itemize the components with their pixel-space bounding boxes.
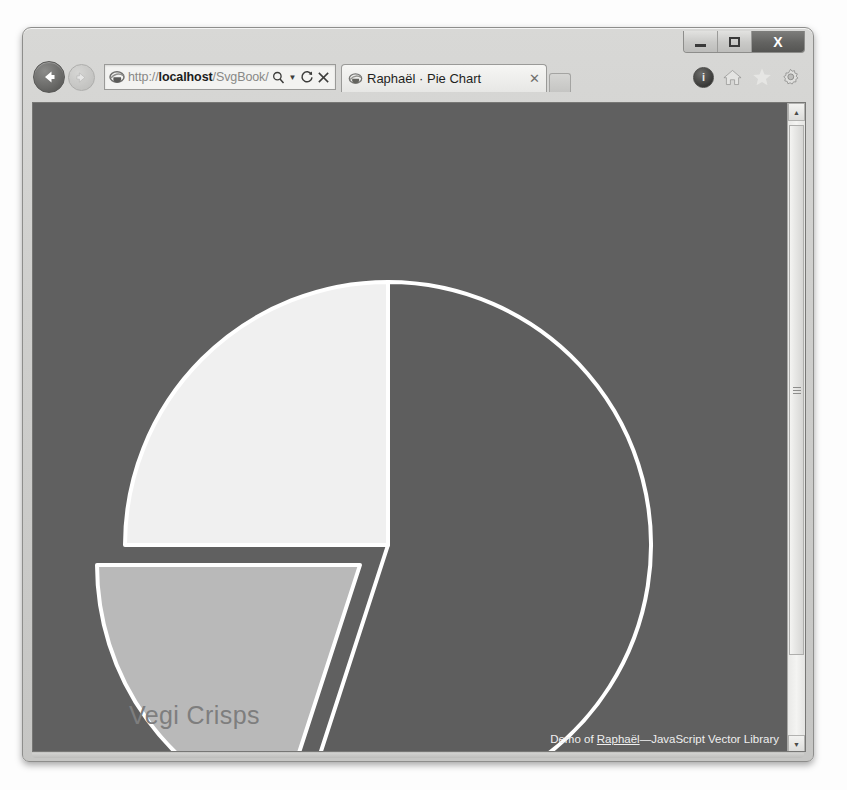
navigation-toolbar: http://localhost/SvgBook/ ▼ [23, 55, 813, 99]
pie-slice-group [97, 282, 651, 752]
chevron-down-icon[interactable]: ▼ [287, 66, 298, 88]
favorites-icon[interactable] [751, 67, 772, 88]
demo-credit: Demo of Raphaël—JavaScript Vector Librar… [550, 733, 779, 745]
internet-explorer-icon [109, 69, 125, 85]
tools-icon[interactable] [780, 67, 801, 88]
tab-title: Raphaël · Pie Chart [367, 71, 527, 86]
minimize-button[interactable] [684, 31, 718, 52]
stop-button[interactable] [315, 66, 332, 88]
gear-glyph [781, 68, 800, 87]
title-bar: X [23, 28, 813, 58]
refresh-button[interactable] [298, 66, 315, 88]
scrollbar-track[interactable] [788, 121, 805, 735]
toolbar-icons: i [693, 67, 805, 88]
credit-suffix: —JavaScript Vector Library [640, 733, 779, 745]
maximize-icon [729, 37, 740, 47]
back-button[interactable] [33, 61, 65, 93]
forward-button[interactable] [68, 64, 95, 91]
maximize-button[interactable] [718, 31, 752, 52]
pie-slice-label-vegi-crisps: Vegi Crisps [129, 701, 260, 730]
compatibility-view-icon[interactable]: i [693, 67, 714, 88]
tab-favicon-icon [348, 71, 363, 86]
browser-window: X http://localh [22, 27, 814, 762]
minimize-icon [695, 44, 706, 47]
window-controls: X [683, 31, 805, 53]
close-button[interactable]: X [752, 31, 804, 52]
refresh-icon [300, 70, 314, 84]
new-tab-button[interactable] [549, 73, 571, 92]
pie-chart[interactable] [33, 103, 789, 752]
magnifier-glyph [272, 71, 285, 84]
content-viewport: Vegi Crisps Demo of Raphaël—JavaScript V… [32, 102, 806, 752]
vertical-scrollbar[interactable]: ▲ ▼ [787, 103, 805, 752]
window-bottom-edge [32, 753, 804, 758]
web-page-canvas: Vegi Crisps Demo of Raphaël—JavaScript V… [33, 103, 789, 752]
scroll-down-button[interactable]: ▼ [788, 735, 805, 752]
tab-close-icon[interactable]: ✕ [527, 71, 542, 86]
scrollbar-thumb[interactable] [789, 125, 804, 655]
url-text: http://localhost/SvgBook/ [128, 70, 270, 84]
back-arrow-icon [40, 68, 58, 86]
credit-prefix: Demo of [550, 733, 597, 745]
tab-pie-chart[interactable]: Raphaël · Pie Chart ✕ [341, 64, 547, 92]
home-icon[interactable] [722, 67, 743, 88]
tab-strip: Raphaël · Pie Chart ✕ [341, 55, 571, 99]
search-icon[interactable] [270, 66, 287, 88]
scroll-up-button[interactable]: ▲ [788, 103, 805, 121]
forward-arrow-icon [74, 70, 89, 85]
scrollbar-grip-icon [793, 385, 801, 396]
slice-light[interactable] [125, 282, 388, 545]
screenshot-page: X http://localh [0, 0, 847, 790]
address-bar[interactable]: http://localhost/SvgBook/ ▼ [104, 64, 336, 90]
raphael-link[interactable]: Raphaël [597, 733, 640, 745]
home-glyph [723, 68, 742, 87]
stop-x-icon [317, 71, 330, 84]
star-glyph [752, 67, 772, 87]
